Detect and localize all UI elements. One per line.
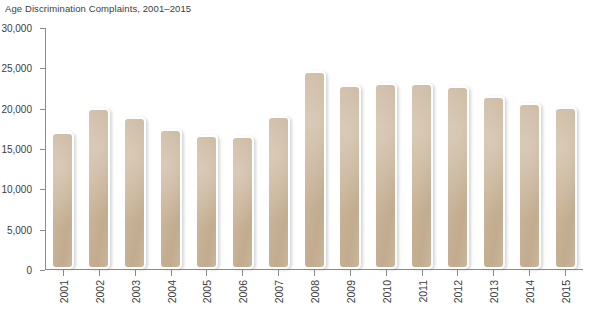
bar-2008: [303, 71, 326, 269]
bar-2010: [374, 83, 397, 269]
y-axis-tick-label: 20,000: [1, 103, 32, 114]
x-axis-tick: [314, 270, 315, 276]
x-axis-tick: [493, 270, 494, 276]
x-axis-label-text: 2007: [273, 280, 285, 317]
y-axis-tick: 15,000: [40, 149, 45, 150]
y-axis-tick: 5,000: [40, 230, 45, 231]
x-axis-label-text: 2013: [488, 280, 500, 317]
x-axis-label-text: 2004: [166, 280, 178, 317]
x-axis-tick: [171, 270, 172, 276]
bar-2001: [51, 132, 74, 269]
y-axis-tick: 20,000: [40, 109, 45, 110]
bar-2002: [87, 108, 110, 269]
x-axis-tick: [278, 270, 279, 276]
x-axis-tick: [206, 270, 207, 276]
bar-2005: [195, 135, 218, 269]
x-axis-label-text: 2001: [58, 280, 70, 317]
x-axis-tick: [457, 270, 458, 276]
x-axis-label-text: 2010: [381, 280, 393, 317]
x-axis-tick: [350, 270, 351, 276]
y-axis-tick: 25,000: [40, 68, 45, 69]
x-axis-label-text: 2011: [417, 280, 429, 317]
chart-title: Age Discrimination Complaints, 2001–2015: [5, 3, 191, 14]
bar-2012: [446, 86, 469, 269]
bar-2004: [159, 129, 182, 269]
bar-2006: [231, 136, 254, 269]
plot-area: 05,00010,00015,00020,00025,00030,000 200…: [45, 28, 583, 270]
bar-2015: [554, 107, 577, 269]
x-axis-label-text: 2005: [201, 280, 213, 317]
bar-2014: [518, 103, 541, 269]
x-axis-tick: [99, 270, 100, 276]
x-axis-tick: [529, 270, 530, 276]
x-axis-tick: [386, 270, 387, 276]
y-axis-line: [45, 28, 46, 270]
x-axis-tick: [135, 270, 136, 276]
bar-2003: [123, 117, 146, 269]
x-axis-tick: [242, 270, 243, 276]
bar-chart: Age Discrimination Complaints, 2001–2015…: [0, 0, 589, 317]
y-axis-tick-label: 15,000: [1, 144, 32, 155]
y-axis-tick-label: 25,000: [1, 63, 32, 74]
x-axis-label-text: 2008: [309, 280, 321, 317]
x-axis-tick: [565, 270, 566, 276]
bar-2009: [338, 85, 361, 269]
y-axis-tick: 10,000: [40, 189, 45, 190]
bar-2013: [482, 96, 505, 269]
y-axis-tick-label: 10,000: [1, 184, 32, 195]
x-axis-label-text: 2012: [452, 280, 464, 317]
x-axis-tick: [63, 270, 64, 276]
y-axis-tick-label: 0: [26, 265, 32, 276]
x-axis-label-text: 2015: [560, 280, 572, 317]
y-axis-tick: 0: [40, 270, 45, 271]
x-axis-label-text: 2002: [94, 280, 106, 317]
x-axis-label-text: 2003: [130, 280, 142, 317]
y-axis-tick-label: 5,000: [7, 224, 32, 235]
y-axis-tick: 30,000: [40, 28, 45, 29]
x-axis-tick: [422, 270, 423, 276]
x-axis-label-text: 2009: [345, 280, 357, 317]
bar-2007: [267, 116, 290, 269]
bar-2011: [410, 83, 433, 269]
x-axis-label-text: 2014: [524, 280, 536, 317]
y-axis-tick-label: 30,000: [1, 23, 32, 34]
x-axis-label-text: 2006: [237, 280, 249, 317]
